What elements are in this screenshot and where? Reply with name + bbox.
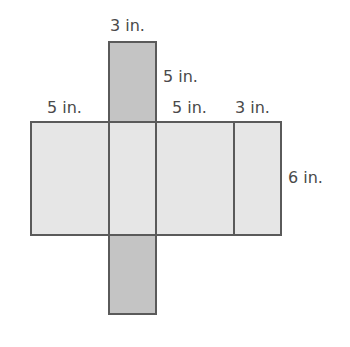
right-face (155, 121, 236, 236)
front-face (108, 121, 157, 236)
left-face-width-label: 5 in. (47, 100, 82, 116)
face-height-label: 6 in. (288, 170, 323, 186)
bottom-face (108, 234, 157, 315)
left-face (30, 121, 110, 236)
top-strip-width-label: 3 in. (110, 18, 145, 34)
top-face (108, 41, 157, 123)
top-strip-height-label: 5 in. (163, 69, 198, 85)
right-mid-face-width-label: 5 in. (172, 100, 207, 116)
back-face (233, 121, 282, 236)
right-face-width-label: 3 in. (235, 100, 270, 116)
